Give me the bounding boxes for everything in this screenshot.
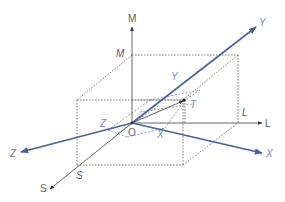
l-projection-label: L <box>242 107 248 118</box>
point-t <box>182 98 185 101</box>
l-axis-label: L <box>265 118 271 129</box>
x-projection-label: X <box>156 129 164 140</box>
dashed-bounding-box <box>77 55 238 165</box>
m-axis-label: M <box>128 13 136 24</box>
y-projection-label: Y <box>171 71 179 82</box>
x-axis-label: X <box>265 148 273 159</box>
lms-xyz-coordinate-diagram: M M L L S S Y Y X X Z Z O T <box>0 0 285 202</box>
z-axis <box>21 123 132 152</box>
z-projection-label: Z <box>99 118 107 129</box>
origin-point <box>131 122 134 125</box>
s-projection-label: S <box>76 170 83 181</box>
t-vector <box>132 101 183 123</box>
point-t-label: T <box>190 99 197 110</box>
origin-label: O <box>128 127 136 138</box>
m-projection-label: M <box>116 48 125 59</box>
x-axis <box>132 123 262 153</box>
s-axis-label: S <box>40 183 47 194</box>
z-axis-label: Z <box>9 148 17 159</box>
y-axis-label: Y <box>259 17 267 28</box>
